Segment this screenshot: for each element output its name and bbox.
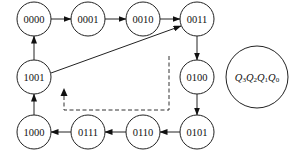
svg-text:0100: 0100 bbox=[187, 72, 208, 83]
svg-text:1001: 1001 bbox=[24, 72, 45, 83]
dashed-arrowhead-icon bbox=[61, 88, 68, 96]
state-node-0011: 0011 bbox=[180, 2, 214, 36]
state-node-0000: 0000 bbox=[17, 2, 51, 36]
state-node-0001: 0001 bbox=[71, 2, 105, 36]
state-node-0111: 0111 bbox=[71, 115, 105, 149]
edge-1001-0011 bbox=[51, 26, 181, 73]
svg-text:1000: 1000 bbox=[24, 127, 45, 138]
state-node-0100: 0100 bbox=[180, 60, 214, 94]
state-node-1000: 1000 bbox=[17, 115, 51, 149]
svg-text:0101: 0101 bbox=[187, 127, 208, 138]
state-node-0010: 0010 bbox=[126, 2, 160, 36]
svg-text:0010: 0010 bbox=[133, 14, 154, 25]
state-diagram: 0000 0001 0010 0011 0100 0101 0110 0111 … bbox=[0, 0, 290, 157]
svg-text:0000: 0000 bbox=[24, 14, 45, 25]
svg-text:0111: 0111 bbox=[78, 127, 98, 138]
svg-text:0011: 0011 bbox=[187, 14, 208, 25]
svg-text:0001: 0001 bbox=[78, 14, 99, 25]
legend-label: Q3Q2Q1Q0 bbox=[235, 72, 280, 84]
state-node-0101: 0101 bbox=[180, 115, 214, 149]
state-node-1001: 1001 bbox=[17, 60, 51, 94]
state-node-0110: 0110 bbox=[126, 115, 160, 149]
dashed-path bbox=[64, 56, 169, 110]
svg-text:0110: 0110 bbox=[133, 127, 154, 138]
legend-circle: Q3Q2Q1Q0 bbox=[226, 46, 288, 108]
